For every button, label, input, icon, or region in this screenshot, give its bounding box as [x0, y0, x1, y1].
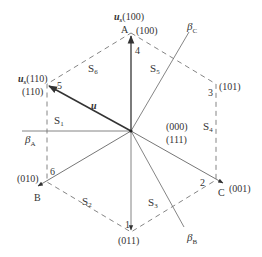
- vertex-number-1: 1: [125, 219, 130, 230]
- sector-s4: S4: [203, 120, 213, 134]
- reference-vector-u-label: u: [91, 100, 97, 111]
- code-100: (100): [136, 25, 158, 37]
- beta-b-label: βB: [186, 231, 197, 246]
- sector-s3: S3: [148, 196, 158, 210]
- origin-point: [129, 129, 132, 132]
- zero-vector-111: (111): [166, 134, 187, 146]
- beta-a-label: βA: [24, 133, 36, 148]
- code-110: (110): [22, 86, 43, 98]
- sector-s2: S2: [82, 195, 92, 209]
- vertex-number-6: 6: [50, 166, 55, 177]
- beta-b-axis: [131, 131, 184, 227]
- space-vector-diagram: us(100) A (100) 4 us(110) (110) 5 (010) …: [0, 0, 262, 257]
- vector-b: [38, 131, 131, 186]
- sector-s5: S5: [150, 62, 160, 76]
- sector-s6: S6: [88, 62, 98, 76]
- us-100-label: us(100): [114, 11, 144, 24]
- vertex-number-2: 2: [200, 177, 205, 188]
- code-101: (101): [219, 81, 241, 93]
- vertex-number-4: 4: [135, 45, 140, 56]
- sector-s1: S1: [54, 114, 64, 128]
- code-001: (001): [229, 183, 251, 195]
- code-011: (011): [118, 235, 139, 247]
- zero-vector-000: (000): [166, 121, 188, 133]
- axis-a-label: A: [121, 24, 129, 35]
- axis-b-label: B: [34, 192, 41, 203]
- vertex-number-3: 3: [208, 87, 213, 98]
- code-010: (010): [17, 173, 39, 185]
- axis-c-label: C: [218, 187, 225, 198]
- vertex-number-5: 5: [57, 80, 62, 91]
- beta-c-label: βC: [186, 20, 197, 35]
- us-110-label: us(110): [18, 73, 48, 86]
